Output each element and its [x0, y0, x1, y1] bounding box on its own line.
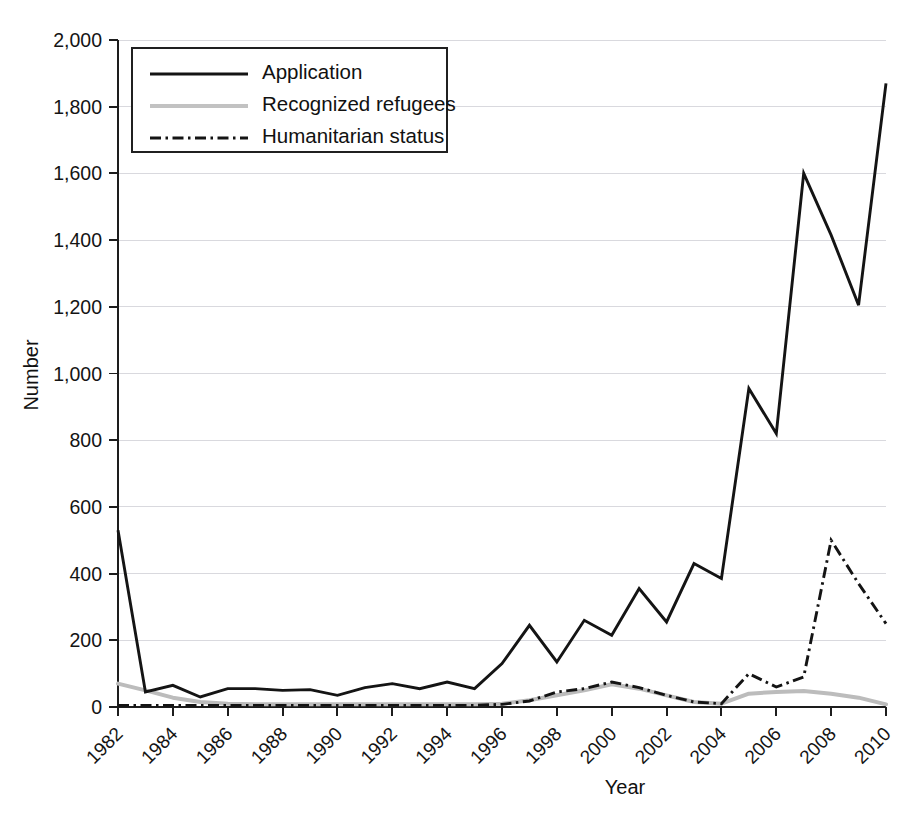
series-line-humanitarian-status	[118, 540, 886, 705]
series-line-application	[118, 83, 886, 697]
y-tick-label: 1,600	[53, 162, 102, 184]
x-tick-label: 2000	[576, 723, 621, 768]
x-axis-ticks: 1982198419861988199019921994199619982000…	[82, 707, 895, 768]
x-tick-label: 1988	[247, 723, 292, 768]
y-tick-label: 1,800	[53, 96, 102, 118]
y-tick-label: 1,400	[53, 229, 102, 251]
x-tick-label: 1984	[137, 723, 182, 768]
y-tick-label: 0	[91, 696, 102, 718]
y-tick-label: 800	[69, 429, 102, 451]
x-tick-label: 2008	[795, 723, 840, 768]
x-tick-label: 2010	[850, 723, 895, 768]
y-tick-label: 400	[69, 563, 102, 585]
line-chart: 02004006008001,0001,2001,4001,6001,8002,…	[0, 0, 903, 827]
x-tick-label: 1990	[302, 723, 347, 768]
x-tick-label: 2006	[740, 723, 785, 768]
x-tick-label: 2002	[631, 723, 676, 768]
chart-container: 02004006008001,0001,2001,4001,6001,8002,…	[0, 0, 903, 827]
y-tick-label: 200	[69, 629, 102, 651]
series-line-recognized-refugees	[118, 684, 886, 705]
y-tick-label: 1,200	[53, 296, 102, 318]
x-tick-label: 1982	[82, 723, 127, 768]
y-tick-label: 2,000	[53, 29, 102, 51]
legend-label-application: Application	[262, 60, 362, 83]
legend-label-humanitarian-status: Humanitarian status	[262, 124, 444, 147]
x-tick-label: 1992	[356, 723, 401, 768]
y-axis-title: Number	[20, 339, 42, 410]
x-tick-label: 1996	[466, 723, 511, 768]
x-tick-label: 1994	[411, 723, 456, 768]
x-tick-label: 1986	[192, 723, 237, 768]
legend-label-recognized-refugees: Recognized refugees	[262, 92, 456, 115]
y-tick-label: 1,000	[53, 363, 102, 385]
y-axis-ticks: 02004006008001,0001,2001,4001,6001,8002,…	[53, 29, 118, 718]
x-tick-label: 1998	[521, 723, 566, 768]
y-tick-label: 600	[69, 496, 102, 518]
x-tick-label: 2004	[686, 723, 731, 768]
x-axis-title: Year	[605, 776, 646, 798]
data-series	[118, 83, 886, 705]
chart-legend: ApplicationRecognized refugeesHumanitari…	[132, 48, 456, 152]
